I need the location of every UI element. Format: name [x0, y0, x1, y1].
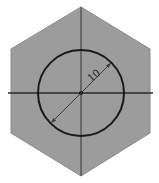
hex-plate-drawing: 10 — [0, 0, 159, 183]
